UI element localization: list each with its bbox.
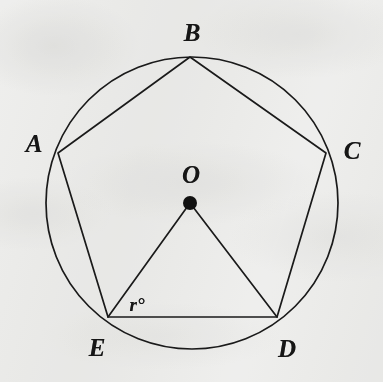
figure-canvas (0, 0, 383, 382)
vertex-label-C: C (344, 138, 361, 163)
angle-label-r-degrees: r° (130, 295, 145, 314)
vertex-label-E: E (89, 335, 106, 360)
center-point-dot (183, 196, 197, 210)
vertex-label-A: A (26, 131, 43, 156)
center-label-O: O (182, 162, 200, 187)
geometry-figure: A B C D E O r° (0, 0, 383, 382)
radius-OD (190, 203, 277, 317)
radius-OE (108, 203, 190, 317)
vertex-label-B: B (184, 20, 201, 45)
vertex-label-D: D (278, 336, 296, 361)
